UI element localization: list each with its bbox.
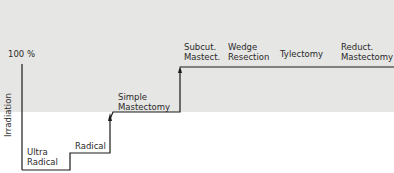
step-tylectomy: Tylectomy xyxy=(280,49,323,59)
step-radical: Radical xyxy=(75,141,106,151)
step-reduct-mastectomy: Reduct. Mastectomy xyxy=(341,42,393,62)
step-simple-mastectomy: Simple Mastectomy xyxy=(118,92,170,112)
step-line-diagram xyxy=(0,0,394,173)
axis-label: 100 % xyxy=(8,49,35,59)
step-wedge-resection: Wedge Resection xyxy=(228,42,269,62)
step-ultra-radical: Ultra Radical xyxy=(27,147,58,167)
irradiation-label: Irradiation xyxy=(3,93,13,137)
step-subcut-mastect: Subcut. Mastect. xyxy=(184,42,220,62)
